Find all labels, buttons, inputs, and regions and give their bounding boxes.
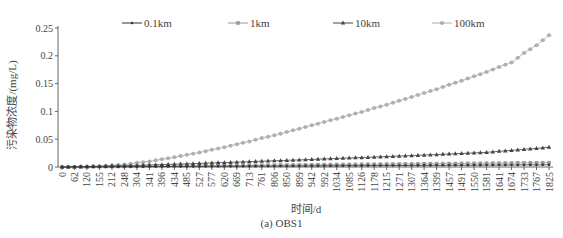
x-tick-label: 620 [219,172,230,187]
legend-label: 10km [355,17,381,29]
x-tick-label: 1178 [369,172,380,192]
x-tick-label: 992 [319,172,330,187]
y-tick-label: 0.25 [36,23,54,34]
x-tick-label: 248 [119,172,130,187]
x-tick-label: 1733 [519,172,530,192]
y-tick-label: 0.15 [36,78,54,89]
legend-label: 0.1km [144,17,172,29]
x-tick-label: 341 [144,172,155,187]
x-tick-label: 396 [156,172,167,187]
x-tick-label: 527 [194,172,205,187]
x-tick-label: 942 [306,172,317,187]
x-tick-label: 0 [57,172,68,177]
x-tick-label: 1085 [344,172,355,192]
x-tick-label: 212 [106,172,117,187]
x-tick-label: 1767 [531,172,542,192]
x-tick-label: 120 [81,172,92,187]
legend-label: 1km [250,17,270,29]
x-tick-label: 1641 [494,172,505,192]
y-tick-label: 0.05 [36,134,54,145]
legend: 0.1km1km10km100km [122,17,485,29]
x-tick-label: 761 [256,172,267,187]
x-tick-label: 713 [244,172,255,187]
x-tick-label: 1825 [544,172,555,192]
x-tick-label: 1364 [419,172,430,192]
legend-item-0_1km: 0.1km [122,17,172,29]
legend-label: 100km [454,17,485,29]
line-chart: 0.1km1km10km100km 00.050.10.150.20.25 06… [0,0,563,238]
plot-area [59,33,551,169]
x-axis-title: 时间/d [291,203,322,215]
y-axis: 00.050.10.150.20.25 [36,23,59,173]
x-tick-label: 806 [269,172,280,187]
x-tick-label: 899 [294,172,305,187]
x-tick-label: 155 [94,172,105,187]
y-tick-label: 0.2 [41,50,54,61]
x-tick-label: 577 [206,172,217,187]
y-axis-title: 污染物浓度/(mg/L) [5,60,19,150]
x-tick-label: 1307 [406,172,417,192]
x-tick-label: 850 [281,172,292,187]
x-tick-label: 1491 [456,172,467,192]
y-tick-label: 0.1 [41,106,54,117]
legend-item-10km: 10km [333,17,381,29]
x-tick-label: 1215 [381,172,392,192]
x-axis: 0621201552122483043413964344855275776206… [57,167,555,192]
series-100km [59,33,551,169]
figure-caption: (a) OBS1 [0,217,563,229]
x-tick-label: 1126 [356,172,367,192]
x-tick-label: 1271 [394,172,405,192]
x-tick-label: 669 [231,172,242,187]
x-tick-label: 1550 [469,172,480,192]
legend-item-100km: 100km [432,17,485,29]
x-tick-label: 1399 [431,172,442,192]
x-tick-label: 62 [69,172,80,182]
x-tick-label: 1034 [331,172,342,192]
x-tick-label: 304 [131,172,142,187]
x-tick-label: 485 [181,172,192,187]
y-tick-label: 0 [48,162,53,173]
legend-item-1km: 1km [228,17,270,29]
x-tick-label: 1674 [506,172,517,192]
x-tick-label: 1457 [444,172,455,192]
x-tick-label: 434 [169,172,180,187]
x-tick-label: 1581 [481,172,492,192]
